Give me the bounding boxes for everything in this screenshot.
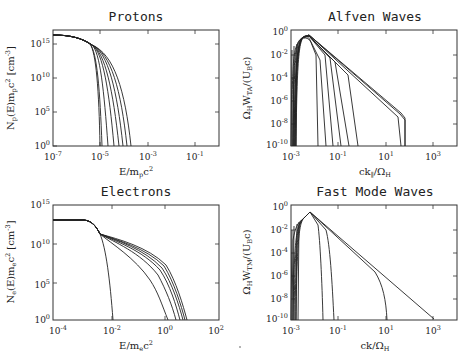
stray-mark xyxy=(239,346,241,348)
x-axis-label: ck∥/ΩH xyxy=(359,166,391,179)
svg-text:10-4: 10-4 xyxy=(270,71,288,83)
panel-protons: Protons 1015 1010 105 100 10-7 10-5 10-3… xyxy=(4,9,219,179)
y-axis-label: ΩHWTM/(UBc) xyxy=(241,229,254,294)
svg-text:10-3: 10-3 xyxy=(282,324,300,336)
svg-text:10-1: 10-1 xyxy=(329,150,347,162)
panel-title: Protons xyxy=(109,9,164,24)
svg-text:10-1: 10-1 xyxy=(329,324,347,336)
figure-canvas: Protons 1015 1010 105 100 10-7 10-5 10-3… xyxy=(0,0,469,364)
svg-text:103: 103 xyxy=(425,324,441,336)
svg-text:10-4: 10-4 xyxy=(270,246,288,258)
plot-frame xyxy=(53,205,219,320)
svg-text:10-5: 10-5 xyxy=(91,150,109,162)
x-axis-label: E/mec2 xyxy=(119,339,153,353)
plot-frame xyxy=(291,30,457,146)
svg-text:100: 100 xyxy=(272,200,288,212)
svg-text:10-8: 10-8 xyxy=(270,117,288,129)
svg-text:1015: 1015 xyxy=(30,198,50,210)
alfven-curves xyxy=(291,35,405,146)
y-tick-label: 1015 xyxy=(30,37,50,49)
svg-text:101: 101 xyxy=(378,324,394,336)
svg-text:10-10: 10-10 xyxy=(266,312,288,324)
svg-text:10-3: 10-3 xyxy=(282,150,300,162)
x-axis-ticks: 10-7 10-5 10-3 10-1 xyxy=(44,30,204,162)
panel-title: Electrons xyxy=(101,184,171,199)
svg-text:103: 103 xyxy=(425,150,441,162)
svg-text:10-8: 10-8 xyxy=(270,292,288,304)
x-axis-ticks: 10-3 10-1 101 103 xyxy=(282,30,441,162)
y-axis-ticks: 1015 1010 105 100 xyxy=(30,37,219,151)
y-axis-label: Np(E)mpc2 [cm-3] xyxy=(4,46,18,130)
x-axis-ticks: 10-3 10-1 101 103 xyxy=(282,205,441,336)
panel-alfven: Alfven Waves 100 10-2 10-4 10-6 10-8 10-… xyxy=(241,9,457,179)
svg-text:100: 100 xyxy=(272,25,288,37)
panel-electrons: Electrons 1015 1010 105 100 10-4 10-2 10… xyxy=(4,184,224,353)
fastmode-curves xyxy=(291,212,434,320)
svg-text:10-2: 10-2 xyxy=(270,223,288,235)
svg-text:101: 101 xyxy=(378,150,394,162)
svg-text:105: 105 xyxy=(34,278,50,290)
svg-text:100: 100 xyxy=(157,324,173,336)
proton-curves xyxy=(53,35,131,146)
svg-text:10-6: 10-6 xyxy=(270,269,288,281)
x-axis-label: E/mpc2 xyxy=(119,165,153,179)
svg-text:1010: 1010 xyxy=(30,238,50,250)
x-axis-ticks: 10-4 10-2 100 102 xyxy=(49,205,224,336)
svg-text:10-10: 10-10 xyxy=(266,138,288,150)
panel-title: Fast Mode Waves xyxy=(316,184,433,199)
y-tick-label: 100 xyxy=(34,139,50,151)
plot-frame xyxy=(53,30,219,146)
panel-title: Alfven Waves xyxy=(328,9,422,24)
electron-curves xyxy=(53,220,187,320)
svg-text:10-7: 10-7 xyxy=(44,150,62,162)
y-axis-ticks: 100 10-2 10-4 10-6 10-8 10-10 xyxy=(266,25,457,150)
y-tick-label: 105 xyxy=(34,105,50,117)
svg-text:10-2: 10-2 xyxy=(103,324,121,336)
x-axis-label: ck/ΩH xyxy=(361,340,390,353)
svg-text:10-1: 10-1 xyxy=(186,150,204,162)
panel-fastmode: Fast Mode Waves 100 10-2 10-4 10-6 10-8 … xyxy=(241,184,457,353)
y-axis-label: Ne(E)mec2 [cm-3] xyxy=(4,220,18,303)
svg-text:100: 100 xyxy=(34,313,50,325)
y-axis-ticks: 1015 1010 105 100 xyxy=(30,198,219,325)
y-axis-label: ΩHWTA/(UBc) xyxy=(241,56,254,119)
svg-text:102: 102 xyxy=(208,324,224,336)
svg-text:10-3: 10-3 xyxy=(139,150,157,162)
y-tick-label: 1010 xyxy=(30,71,50,83)
svg-text:10-4: 10-4 xyxy=(49,324,67,336)
svg-text:10-2: 10-2 xyxy=(270,48,288,60)
svg-text:10-6: 10-6 xyxy=(270,94,288,106)
